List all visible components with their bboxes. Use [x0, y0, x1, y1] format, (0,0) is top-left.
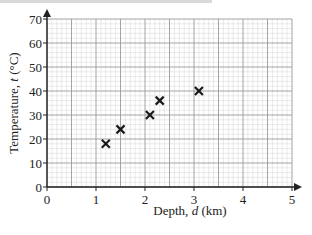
- y-tick-label: 40: [29, 84, 42, 99]
- y-tick-label: 10: [29, 156, 42, 171]
- y-axis-title: Temperature, t (°C): [6, 52, 21, 153]
- y-tick-label: 60: [29, 36, 42, 51]
- x-tick-label: 4: [240, 192, 247, 207]
- tick-labels: 012345010203040506070: [29, 12, 295, 208]
- scatter-chart: 012345010203040506070 Depth, d (km) Temp…: [0, 0, 312, 235]
- x-tick-label: 2: [142, 192, 149, 207]
- x-axis-arrow-icon: [294, 183, 302, 191]
- x-tick-label: 5: [289, 192, 296, 207]
- x-tick-label: 0: [44, 192, 51, 207]
- y-tick-label: 0: [36, 180, 43, 195]
- axes: [43, 9, 302, 191]
- x-tick-label: 1: [93, 192, 100, 207]
- y-tick-label: 20: [29, 132, 42, 147]
- y-tick-label: 70: [29, 12, 42, 27]
- y-tick-label: 50: [29, 60, 42, 75]
- grid-major: [47, 19, 292, 187]
- y-tick-label: 30: [29, 108, 42, 123]
- x-axis-title: Depth, d (km): [153, 203, 226, 218]
- y-axis-arrow-icon: [43, 9, 51, 17]
